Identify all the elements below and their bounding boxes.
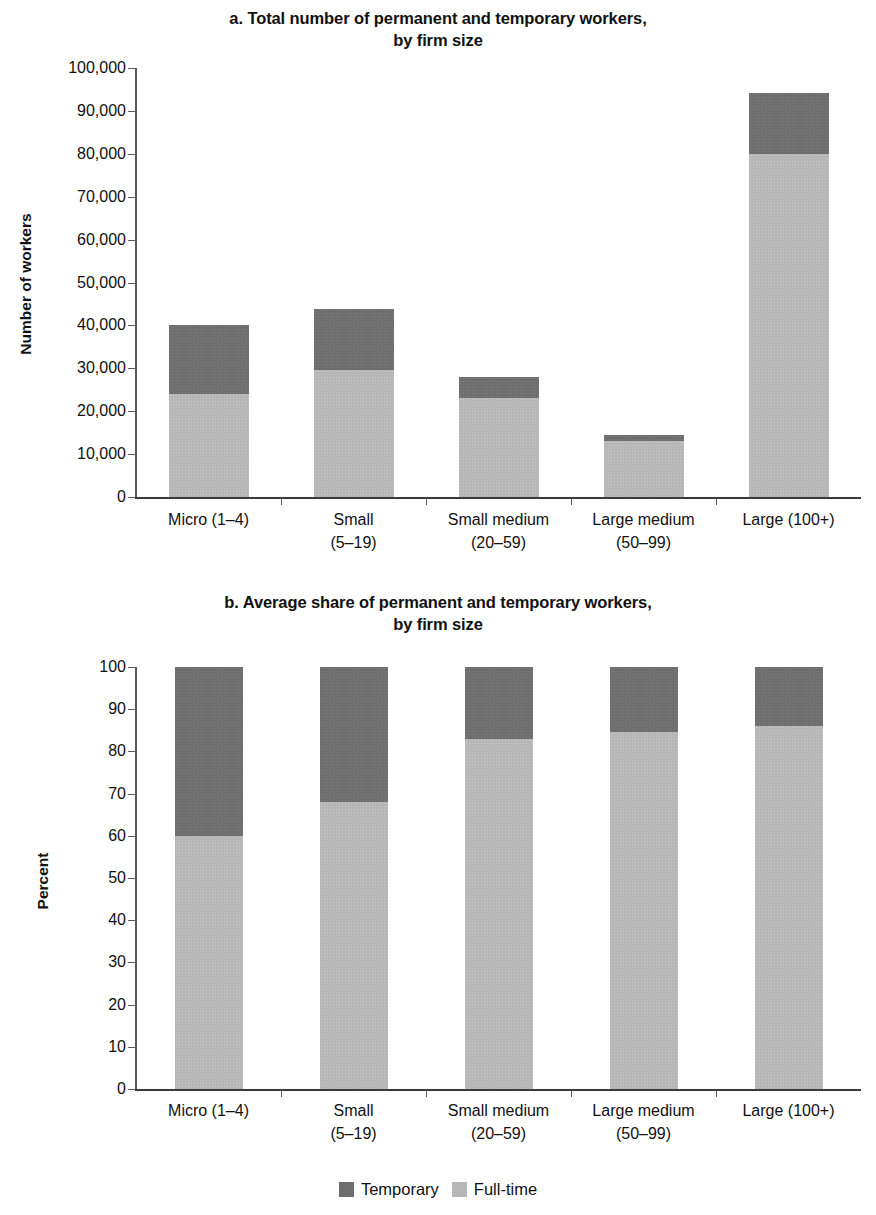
bar-segment-full-time — [610, 732, 678, 1089]
x-axis-category-label: Large medium(50–99) — [571, 1100, 716, 1145]
y-tick-label: 10 — [26, 1038, 126, 1056]
x-tick-mark — [426, 1089, 427, 1097]
x-axis-category-label: Micro (1–4) — [136, 1100, 281, 1145]
x-axis-category-label-line: (50–99) — [571, 1123, 716, 1146]
bar-segment-temporary — [175, 667, 243, 836]
legend-swatch-temporary — [339, 1182, 354, 1197]
panel-b-plot: Percent 0102030405060708090100 Micro (1–… — [0, 0, 876, 1215]
x-axis-category-label-line: (20–59) — [426, 1123, 571, 1146]
stacked-bar — [465, 667, 533, 1089]
legend-swatch-full_time — [452, 1182, 467, 1197]
x-axis-category-label: Large (100+) — [716, 1100, 861, 1145]
bar-segment-full-time — [320, 802, 388, 1089]
y-tick-label: 30 — [26, 953, 126, 971]
y-tick-label: 20 — [26, 996, 126, 1014]
bar-segment-full-time — [755, 726, 823, 1089]
y-tick-label: 50 — [26, 869, 126, 887]
figure-legend: TemporaryFull-time — [0, 1180, 876, 1199]
x-tick-mark — [281, 1089, 282, 1097]
stacked-bar — [610, 667, 678, 1089]
legend-item-temporary: Temporary — [339, 1180, 439, 1199]
x-axis-category-label: Small(5–19) — [281, 1100, 426, 1145]
panel-b-bars — [136, 667, 861, 1089]
x-axis-category-label-line: Small medium — [426, 1100, 571, 1123]
x-axis-category-label-line: (5–19) — [281, 1123, 426, 1146]
y-tick-label: 100 — [26, 658, 126, 676]
x-axis-category-label-line: Large medium — [571, 1100, 716, 1123]
bar-segment-full-time — [175, 836, 243, 1089]
legend-item-full_time: Full-time — [452, 1180, 537, 1199]
y-tick-label: 90 — [26, 700, 126, 718]
x-axis-category-label-line: Small — [281, 1100, 426, 1123]
legend-label-full_time: Full-time — [474, 1180, 537, 1199]
stacked-bar — [320, 667, 388, 1089]
y-tick-label: 80 — [26, 742, 126, 760]
y-tick-label: 70 — [26, 785, 126, 803]
x-axis-category-label-line: Large (100+) — [716, 1100, 861, 1123]
panel-b-x-axis-line — [135, 1089, 861, 1091]
x-axis-category-label-line: Micro (1–4) — [136, 1100, 281, 1123]
x-axis-category-label: Small medium(20–59) — [426, 1100, 571, 1145]
bar-segment-temporary — [610, 667, 678, 732]
stacked-bar — [755, 667, 823, 1089]
bar-segment-temporary — [755, 667, 823, 726]
legend-label-temporary: Temporary — [361, 1180, 439, 1199]
bar-segment-full-time — [465, 739, 533, 1089]
stacked-bar — [175, 667, 243, 1089]
y-tick-label: 40 — [26, 911, 126, 929]
x-tick-mark — [571, 1089, 572, 1097]
x-tick-mark — [716, 1089, 717, 1097]
y-tick-label: 60 — [26, 827, 126, 845]
bar-segment-temporary — [320, 667, 388, 802]
panel-b-x-labels: Micro (1–4)Small(5–19)Small medium(20–59… — [136, 1100, 861, 1145]
y-tick-label: 0 — [26, 1080, 126, 1098]
bar-segment-temporary — [465, 667, 533, 739]
